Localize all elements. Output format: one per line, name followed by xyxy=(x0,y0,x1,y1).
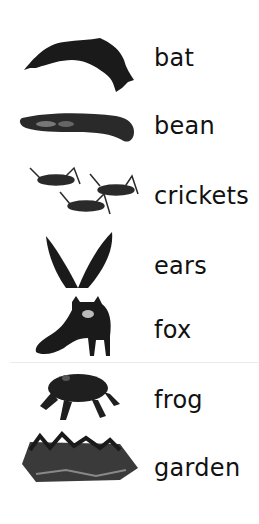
word-label: bat xyxy=(154,46,194,70)
word-label: ears xyxy=(154,254,207,278)
garden-icon xyxy=(16,430,140,494)
divider xyxy=(10,362,259,363)
bean-icon xyxy=(16,98,140,162)
word-label: fox xyxy=(154,318,192,342)
word-label: frog xyxy=(154,388,203,412)
frog-icon xyxy=(16,366,140,430)
bat-icon xyxy=(16,30,140,94)
crickets-icon xyxy=(16,162,140,226)
list-item-bean: bean xyxy=(0,98,259,162)
list-item-frog: frog xyxy=(0,366,259,430)
word-label: garden xyxy=(154,456,240,480)
list-item-crickets: crickets xyxy=(0,162,259,226)
word-label: bean xyxy=(154,114,215,138)
list-item-bat: bat xyxy=(0,30,259,94)
list-item-garden: garden xyxy=(0,430,259,494)
fox-icon xyxy=(16,296,140,360)
list-item-ears: ears xyxy=(0,228,259,292)
word-label: crickets xyxy=(154,184,249,208)
ears-icon xyxy=(16,228,140,292)
list-item-fox: fox xyxy=(0,296,259,360)
